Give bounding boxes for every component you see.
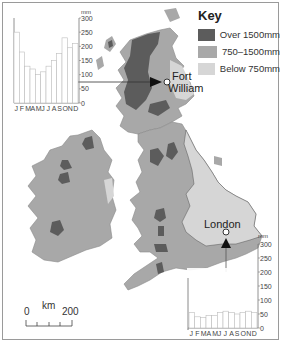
y-tick-label: 250 xyxy=(260,255,272,262)
london-label: London xyxy=(204,218,241,230)
month-label: F xyxy=(20,105,24,112)
fort-william-label-line2: William xyxy=(168,82,203,94)
key-item-below-750: Below 750mm xyxy=(196,61,280,76)
fort-william-rainfall-chart: 050100150200250300 mm JFMAMJJASOND xyxy=(6,8,93,112)
key-label: Below 750mm xyxy=(220,63,280,74)
month-label: J xyxy=(47,105,51,112)
month-label: A xyxy=(229,330,234,337)
swatch-dark xyxy=(198,29,215,41)
y-tick-label: 100 xyxy=(81,71,93,78)
y-tick-label: 100 xyxy=(260,297,272,304)
month-label: A xyxy=(31,105,36,112)
y-tick-label: 50 xyxy=(260,311,268,318)
y-tick-label: 250 xyxy=(81,29,93,36)
key-title: Key xyxy=(198,8,280,23)
chart-bar xyxy=(195,317,201,328)
wales-wet-south xyxy=(154,244,168,252)
ireland-landmass xyxy=(28,130,116,262)
month-label: F xyxy=(195,330,199,337)
fort-william-label-line1: Fort xyxy=(172,70,203,82)
chart-bar xyxy=(19,52,24,103)
chart-bar xyxy=(46,66,51,103)
chart-bar xyxy=(67,48,72,103)
chart-bar xyxy=(35,75,40,103)
chart-bar xyxy=(217,313,223,328)
month-label: N xyxy=(246,330,251,337)
chart-bar xyxy=(200,318,206,328)
key-label: Over 1500mm xyxy=(220,29,280,40)
month-label: D xyxy=(252,330,257,337)
chart-bar xyxy=(212,315,218,328)
y-tick-label: 200 xyxy=(81,43,93,50)
month-label: J xyxy=(15,105,19,112)
month-label: S xyxy=(235,330,240,337)
chart-bar xyxy=(73,44,78,104)
chart-bar xyxy=(25,66,30,103)
chart-bar xyxy=(206,315,212,328)
y-tick-label: 150 xyxy=(260,283,272,290)
chart-bar xyxy=(229,313,235,328)
chart-bar xyxy=(189,313,195,328)
month-label: N xyxy=(68,105,73,112)
svg-text:mm: mm xyxy=(258,233,268,239)
chart-bar xyxy=(14,32,19,103)
key-label: 750–1500mm xyxy=(222,46,280,57)
y-tick-label: 150 xyxy=(81,57,93,64)
svg-text:mm: mm xyxy=(81,9,91,15)
chart-bar xyxy=(246,311,252,328)
month-label: J xyxy=(41,105,45,112)
month-label: J xyxy=(190,330,194,337)
month-label: J xyxy=(224,330,228,337)
chart-bar xyxy=(234,314,240,328)
chart-bar xyxy=(62,38,67,103)
key-item-over-1500: Over 1500mm xyxy=(196,27,280,42)
y-tick-label: 300 xyxy=(260,241,272,248)
map-key: Key Over 1500mm 750–1500mm Below 750mm xyxy=(196,8,280,78)
month-label: J xyxy=(218,330,222,337)
y-tick-label: 200 xyxy=(260,269,272,276)
y-tick-label: 50 xyxy=(81,85,89,92)
month-label: A xyxy=(207,330,212,337)
month-label: S xyxy=(57,105,62,112)
scale-start: 0 xyxy=(24,306,30,317)
chart-bar xyxy=(223,311,229,328)
month-label: D xyxy=(73,105,78,112)
scale-end: 200 xyxy=(62,306,79,317)
chart-bar xyxy=(30,69,35,103)
y-tick-label: 300 xyxy=(81,15,93,22)
chart-bar xyxy=(57,53,62,103)
chart-bar xyxy=(240,313,246,328)
chart-bar xyxy=(51,61,56,104)
key-item-750-1500: 750–1500mm xyxy=(196,44,280,59)
swatch-mid xyxy=(198,46,217,58)
wales-wet-mid xyxy=(158,226,164,236)
y-tick-label: 0 xyxy=(81,100,85,107)
fort-william-label: Fort William xyxy=(172,70,203,94)
scale-unit: km xyxy=(42,300,55,311)
y-tick-label: 0 xyxy=(260,325,264,332)
scale-bar xyxy=(26,320,72,326)
chart-bar xyxy=(251,313,257,328)
month-label: A xyxy=(52,105,57,112)
chart-bar xyxy=(41,72,46,103)
